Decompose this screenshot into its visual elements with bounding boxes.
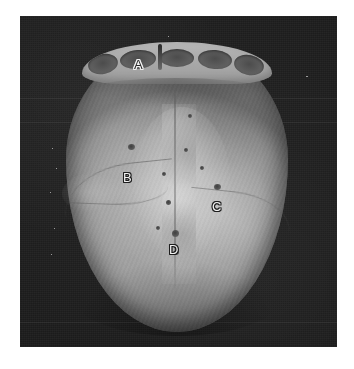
orbital-notch — [86, 51, 120, 77]
dust-speck — [52, 148, 53, 149]
dust-speck — [50, 192, 51, 193]
orbital-notch — [197, 49, 233, 71]
label-d: D — [169, 243, 178, 256]
frontal-orbital-rim — [82, 42, 272, 84]
orbital-notch — [232, 52, 266, 78]
label-b: B — [123, 171, 132, 184]
label-c: C — [212, 200, 221, 213]
orbital-notch — [160, 49, 194, 67]
dust-speck — [168, 36, 169, 37]
cranial-vault — [66, 44, 288, 332]
label-a: A — [134, 58, 143, 71]
dust-speck — [306, 76, 308, 77]
dust-speck — [56, 168, 57, 169]
anatomical-figure: A B C D — [0, 0, 354, 369]
dust-speck — [51, 254, 52, 255]
frontal-midline-gap — [158, 44, 162, 70]
skull-specimen — [66, 44, 288, 332]
dust-speck — [54, 228, 55, 229]
photograph-plate — [20, 16, 337, 347]
